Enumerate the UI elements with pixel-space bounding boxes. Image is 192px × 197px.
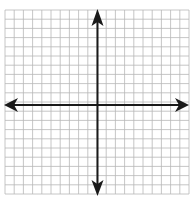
coordinate-plane <box>0 0 192 197</box>
